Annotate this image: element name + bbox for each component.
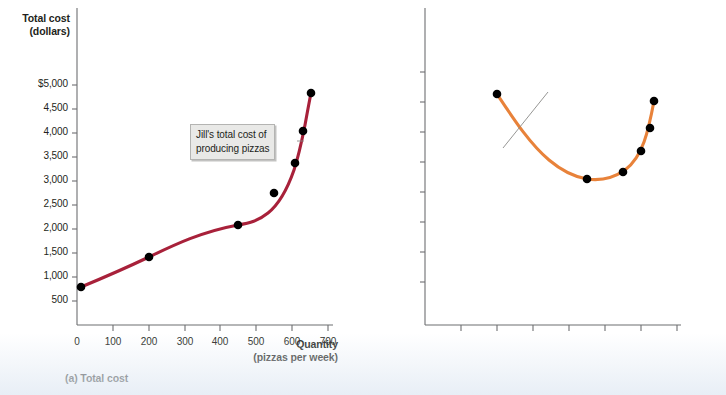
average-total-cost-markers (493, 90, 659, 184)
data-point (637, 147, 646, 156)
data-point (291, 159, 300, 168)
x-axis-title-total-cost: Quantity (pizzas per week) (210, 338, 338, 364)
y-tick-label-a: 4,500 (16, 102, 68, 113)
data-point (493, 90, 502, 99)
data-point (299, 127, 308, 136)
y-ticks-b (420, 72, 425, 282)
y-tick-label-a: 2,000 (16, 222, 68, 233)
panel-caption-total-cost: (a) Total cost (65, 372, 128, 384)
y-ticks-a (72, 85, 77, 301)
x-tick-label-a: 100 (99, 336, 127, 347)
x-tick-label-a: 200 (135, 336, 163, 347)
panel-average-total-cost: Average total cost (dollars per pizza) $… (363, 0, 726, 395)
data-point (234, 221, 243, 230)
x-tick-label-a: 0 (63, 336, 91, 347)
data-point (583, 175, 592, 184)
data-point (619, 168, 628, 177)
total-cost-markers (77, 89, 316, 292)
y-tick-label-a: 500 (16, 294, 68, 305)
data-point (77, 283, 86, 292)
y-tick-label-a: 1,000 (16, 270, 68, 281)
x-ticks-a (113, 325, 328, 331)
data-point (646, 124, 655, 133)
figure-container: Total cost (dollars) (0, 0, 726, 395)
y-tick-label-a: 4,000 (16, 126, 68, 137)
callout-leader-b (503, 92, 548, 148)
y-tick-label-a: 2,500 (16, 198, 68, 209)
panel-total-cost: Total cost (dollars) (0, 0, 363, 395)
callout-total-cost: Jill's total cost of producing pizzas (190, 124, 275, 160)
y-tick-label-a: 3,000 (16, 174, 68, 185)
data-point (270, 189, 279, 198)
average-total-cost-plot (363, 0, 726, 395)
data-point (650, 97, 659, 106)
y-tick-label-a: 3,500 (16, 150, 68, 161)
y-tick-label-a: $5,000 (16, 78, 68, 89)
x-ticks-b (461, 325, 677, 331)
data-point (145, 253, 154, 262)
x-tick-label-a: 300 (171, 336, 199, 347)
average-total-cost-curve (497, 94, 654, 180)
y-tick-label-a: 1,500 (16, 246, 68, 257)
data-point (307, 89, 316, 98)
